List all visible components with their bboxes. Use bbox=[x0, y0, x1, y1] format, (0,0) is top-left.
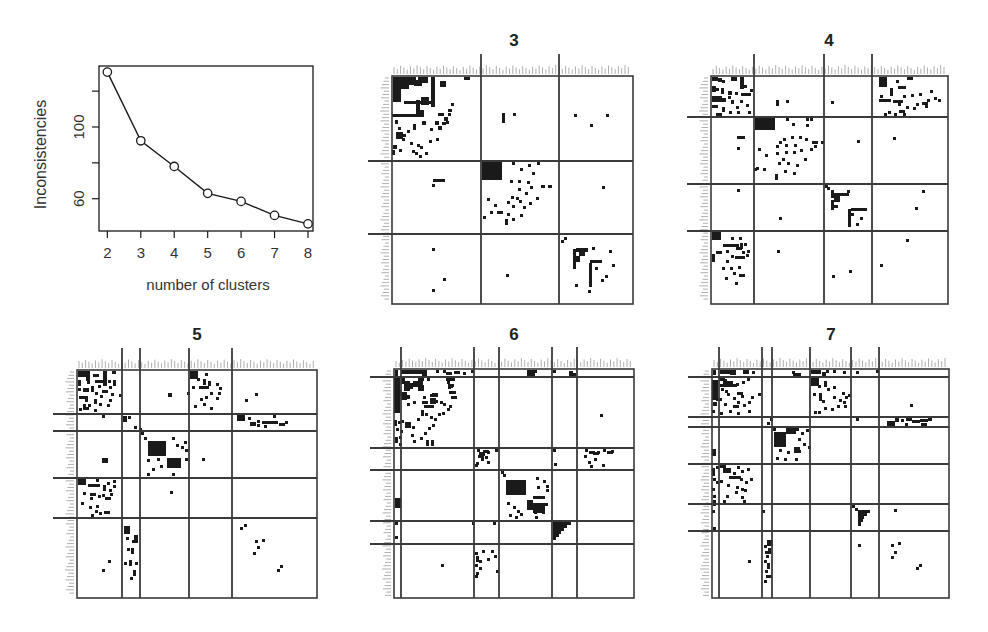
x-tick-label: 2 bbox=[103, 244, 111, 261]
y-axis-label: Inconsistencies bbox=[32, 100, 49, 209]
heatmap-panel-7 bbox=[688, 347, 949, 598]
row-labels bbox=[382, 371, 391, 595]
x-tick-label: 6 bbox=[237, 244, 245, 261]
y-tick-label: 60 bbox=[70, 190, 87, 207]
heatmap-title-6: 6 bbox=[494, 325, 534, 345]
heatmap-title-5: 5 bbox=[177, 325, 217, 345]
figure: 601002345678number of clustersInconsiste… bbox=[0, 0, 988, 632]
data-line bbox=[107, 72, 308, 224]
row-labels bbox=[700, 371, 709, 595]
matrix-cells bbox=[712, 77, 941, 285]
line-chart-inconsistencies: 601002345678number of clustersInconsiste… bbox=[32, 66, 313, 293]
data-point-marker bbox=[103, 68, 111, 76]
data-point-marker bbox=[137, 137, 145, 145]
heatmap-panel-5 bbox=[53, 348, 317, 598]
heatmap-title-3: 3 bbox=[494, 31, 534, 51]
data-point-marker bbox=[203, 189, 211, 197]
data-point-marker bbox=[304, 220, 312, 228]
data-point-marker bbox=[237, 197, 245, 205]
heatmap-panel-6 bbox=[370, 347, 634, 598]
x-tick-label: 8 bbox=[304, 244, 312, 261]
figure-canvas: 601002345678number of clustersInconsiste… bbox=[0, 0, 988, 632]
x-tick-label: 7 bbox=[270, 244, 278, 261]
data-point-marker bbox=[170, 162, 178, 170]
data-point-marker bbox=[270, 211, 278, 219]
matrix-cells bbox=[392, 77, 615, 293]
column-labels bbox=[714, 358, 945, 367]
row-labels bbox=[380, 78, 389, 299]
plot-frame bbox=[99, 66, 313, 231]
column-labels bbox=[396, 358, 630, 367]
x-axis-label: number of clusters bbox=[146, 276, 269, 293]
x-tick-label: 4 bbox=[170, 244, 178, 261]
row-labels bbox=[699, 78, 708, 299]
matrix-cells bbox=[712, 370, 932, 583]
heatmap-title-7: 7 bbox=[811, 325, 851, 345]
row-labels bbox=[65, 372, 74, 593]
x-tick-label: 5 bbox=[204, 244, 212, 261]
matrix-frame bbox=[77, 370, 317, 598]
heatmap-title-4: 4 bbox=[809, 31, 849, 51]
y-tick-label: 100 bbox=[70, 114, 87, 139]
x-tick-label: 3 bbox=[137, 244, 145, 261]
heatmap-panel-4 bbox=[687, 54, 948, 304]
matrix-cells bbox=[394, 370, 614, 578]
column-labels bbox=[713, 65, 944, 74]
column-labels bbox=[394, 65, 628, 74]
column-labels bbox=[79, 359, 313, 368]
matrix-cells bbox=[78, 371, 288, 580]
heatmap-panel-3 bbox=[368, 54, 633, 304]
